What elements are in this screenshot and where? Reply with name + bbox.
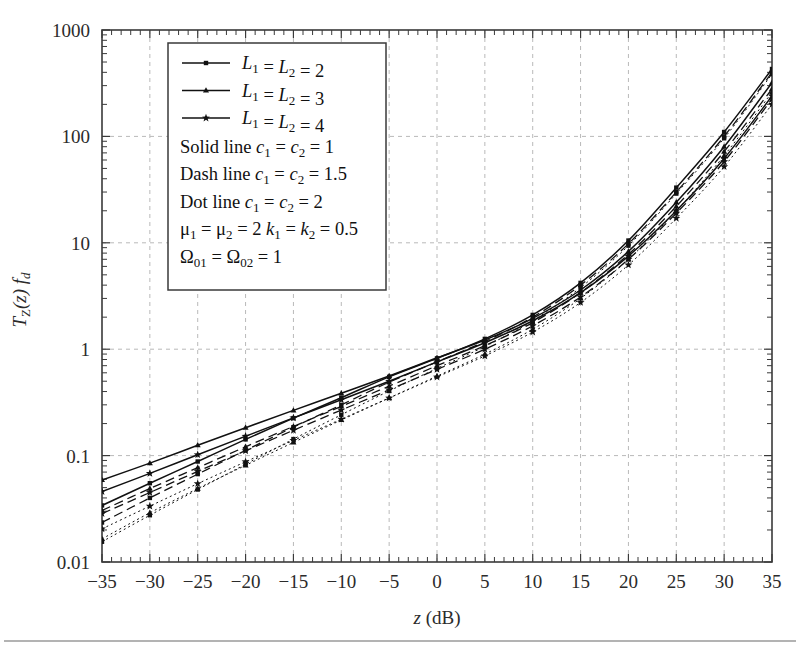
data-point-square (674, 185, 678, 189)
data-point-square (531, 319, 535, 323)
y-tick-label: 0.01 (57, 552, 90, 573)
x-tick-label: 25 (667, 571, 686, 592)
legend-note: Solid line c1 = c2 = 1 (180, 137, 334, 160)
figure-container: −35−30−25−20−15−10−505101520253035 0.010… (0, 0, 800, 650)
svg-text:TZ(z) fd: TZ(z) fd (9, 272, 33, 328)
log-line-chart: −35−30−25−20−15−10−505101520253035 0.010… (0, 0, 800, 650)
legend-note: μ1 = μ2 = 2 k1 = k2 = 0.5 (180, 219, 358, 242)
svg-text:z (dB): z (dB) (413, 607, 461, 629)
x-tick-labels: −35−30−25−20−15−10−505101520253035 (87, 571, 781, 592)
chart-legend: L1 = L2 = 2L1 = L2 = 3L1 = L2 = 4Solid l… (168, 43, 386, 290)
x-tick-label: −35 (87, 571, 117, 592)
y-tick-label: 1 (81, 339, 91, 360)
data-point-square (148, 496, 152, 500)
x-tick-label: −20 (231, 571, 261, 592)
x-tick-label: 0 (432, 571, 442, 592)
data-point-square (578, 285, 582, 289)
data-point-square (148, 481, 152, 485)
x-tick-label: −5 (379, 571, 399, 592)
x-tick-label: 30 (715, 571, 734, 592)
data-point-square (674, 191, 678, 195)
chart-background (0, 0, 800, 650)
data-point-square (196, 459, 200, 463)
x-axis-title: z (dB) (413, 607, 461, 629)
x-tick-label: −10 (326, 571, 356, 592)
x-tick-label: 10 (523, 571, 542, 592)
x-tick-label: 35 (763, 571, 782, 592)
x-tick-label: −25 (183, 571, 213, 592)
x-tick-label: 5 (480, 571, 490, 592)
y-tick-label: 0.1 (66, 446, 90, 467)
y-tick-label: 100 (62, 126, 91, 147)
x-tick-label: −15 (279, 571, 309, 592)
y-tick-label: 10 (71, 233, 90, 254)
x-tick-label: 15 (571, 571, 590, 592)
data-point-square (483, 344, 487, 348)
x-tick-label: 20 (619, 571, 638, 592)
data-point-square (626, 243, 630, 247)
data-point-square (435, 366, 439, 370)
data-point-square (387, 389, 391, 393)
data-point-square (722, 136, 726, 140)
legend-note: Dot line c1 = c2 = 2 (180, 192, 323, 215)
y-tick-label: 1000 (52, 20, 90, 41)
x-tick-label: −30 (135, 571, 165, 592)
data-point-square (204, 61, 208, 65)
y-axis-title: TZ(z) fd (9, 272, 33, 328)
